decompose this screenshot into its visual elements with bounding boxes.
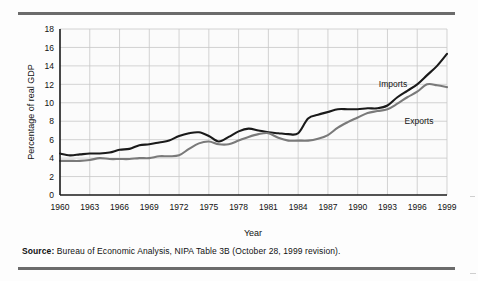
y-tick-label: 16 <box>45 43 55 53</box>
x-tick-label: 1963 <box>80 202 99 212</box>
y-tick-label: 8 <box>49 116 54 126</box>
plot-background <box>60 29 447 195</box>
y-tick-label: 2 <box>49 172 54 182</box>
figure-container: 024681012141618 196019631966196919721975… <box>0 0 478 281</box>
x-tick-label: 1978 <box>229 202 248 212</box>
x-tick-label: 1999 <box>438 202 457 212</box>
y-tick-label: 4 <box>49 153 54 163</box>
series-label-imports: Imports <box>379 79 407 89</box>
x-axis-tick-labels: 1960196319661969197219751978198119841987… <box>51 202 457 212</box>
x-tick-label: 1960 <box>51 202 70 212</box>
y-tick-label: 0 <box>49 190 54 200</box>
y-tick-label: 10 <box>45 98 55 108</box>
line-chart: 024681012141618 196019631966196919721975… <box>0 14 478 246</box>
bottom-divider-rule <box>18 267 455 270</box>
y-tick-label: 18 <box>45 24 55 34</box>
x-tick-label: 1993 <box>378 202 397 212</box>
source-note: Source: Bureau of Economic Analysis, NIP… <box>22 246 340 256</box>
y-axis-title: Percentage of real GDP <box>26 64 36 160</box>
x-tick-label: 1984 <box>289 202 308 212</box>
x-tick-label: 1987 <box>318 202 337 212</box>
x-tick-label: 1996 <box>408 202 427 212</box>
source-text: Bureau of Economic Analysis, NIPA Table … <box>57 246 341 256</box>
x-tick-label: 1969 <box>140 202 159 212</box>
y-axis-tick-labels: 024681012141618 <box>45 24 55 200</box>
series-label-exports: Exports <box>405 116 434 126</box>
x-tick-label: 1966 <box>110 202 129 212</box>
y-tick-label: 12 <box>45 80 55 90</box>
y-tick-label: 6 <box>49 135 54 145</box>
scan-artifact-bottom <box>470 273 476 274</box>
x-axis-title: Year <box>244 228 262 238</box>
y-tick-label: 14 <box>45 61 55 71</box>
scan-artifact-top <box>470 196 475 197</box>
x-tick-label: 1981 <box>259 202 278 212</box>
x-tick-label: 1990 <box>348 202 367 212</box>
source-label: Source: <box>22 246 54 256</box>
x-tick-label: 1975 <box>199 202 218 212</box>
x-tick-label: 1972 <box>170 202 189 212</box>
